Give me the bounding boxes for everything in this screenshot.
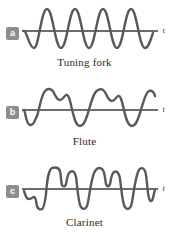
waveform-plot-tuning-fork xyxy=(18,0,158,62)
waveform-plot-clarinet xyxy=(18,158,158,220)
panel-clarinet: c t Clarinet xyxy=(0,158,169,235)
axis-label-t-a: t xyxy=(162,25,165,35)
axis-label-t-b: t xyxy=(162,104,165,114)
waveform-plot-flute xyxy=(18,79,158,141)
panel-caption-clarinet: Clarinet xyxy=(0,216,169,228)
axis-label-t-c: t xyxy=(162,183,165,193)
panel-flute: b t Flute xyxy=(0,79,169,157)
panel-tuning-fork: a t Tuning fork xyxy=(0,0,169,78)
waveform-path-flute xyxy=(24,89,155,126)
panel-caption-tuning-fork: Tuning fork xyxy=(0,56,169,68)
waveform-figure: a t Tuning fork b t Flute c t Clarinet xyxy=(0,0,169,235)
panel-caption-flute: Flute xyxy=(0,135,169,147)
waveform-path-sine xyxy=(24,9,153,48)
